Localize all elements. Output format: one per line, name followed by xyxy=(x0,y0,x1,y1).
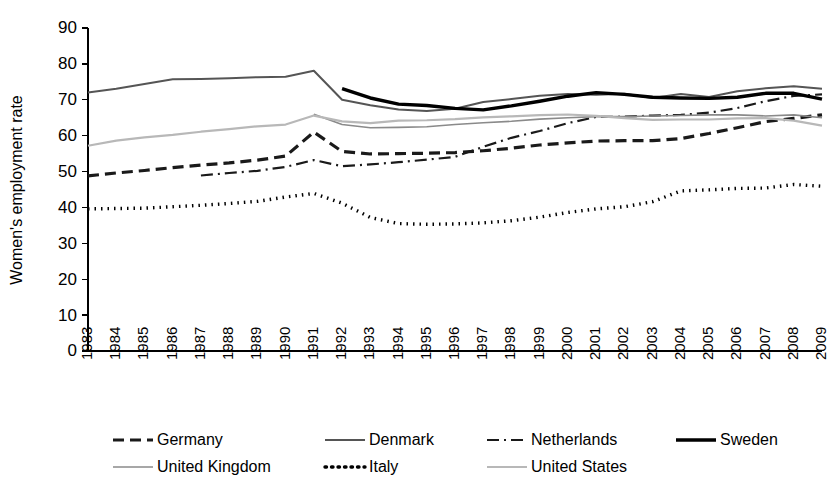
y-tick-label: 0 xyxy=(68,341,77,360)
y-tick-label: 40 xyxy=(58,198,77,217)
x-tick-label: 2009 xyxy=(812,327,829,360)
y-axis-tick-labels: 0102030405060708090 xyxy=(58,18,77,360)
x-tick-label: 2004 xyxy=(671,327,688,360)
y-tick-label: 10 xyxy=(58,306,77,325)
x-tick-label: 1988 xyxy=(219,327,236,360)
chart-axes xyxy=(82,28,822,351)
chart-legend: GermanyDenmarkNetherlandsSwedenUnited Ki… xyxy=(113,431,778,475)
legend-label-italy: Italy xyxy=(369,458,398,475)
employment-rate-chart: 0102030405060708090 19831984198519861987… xyxy=(0,0,840,491)
x-tick-label: 1997 xyxy=(473,327,490,360)
x-tick-label: 1998 xyxy=(501,327,518,360)
chart-canvas: 0102030405060708090 19831984198519861987… xyxy=(0,0,840,491)
x-tick-label: 2008 xyxy=(784,327,801,360)
y-axis-title: Women's employment rate xyxy=(8,95,25,285)
legend-label-sweden: Sweden xyxy=(720,431,778,448)
legend-item-germany[interactable]: Germany xyxy=(113,431,223,448)
x-tick-label: 1995 xyxy=(417,327,434,360)
legend-item-netherlands[interactable]: Netherlands xyxy=(487,431,617,448)
y-tick-label: 30 xyxy=(58,234,77,253)
y-tick-label: 80 xyxy=(58,54,77,73)
x-tick-label: 2007 xyxy=(756,327,773,360)
legend-label-united-states: United States xyxy=(531,458,627,475)
x-tick-label: 2005 xyxy=(699,327,716,360)
x-tick-label: 2001 xyxy=(586,327,603,360)
x-tick-label: 1991 xyxy=(304,327,321,360)
x-tick-label: 1993 xyxy=(360,327,377,360)
chart-series-lines xyxy=(88,71,822,225)
legend-label-united-kingdom: United Kingdom xyxy=(157,458,271,475)
y-tick-label: 70 xyxy=(58,90,77,109)
legend-item-united-states[interactable]: United States xyxy=(487,458,627,475)
series-line-sweden xyxy=(342,89,822,110)
y-tick-label: 60 xyxy=(58,126,77,145)
x-tick-label: 1983 xyxy=(78,327,95,360)
x-tick-label: 1987 xyxy=(191,327,208,360)
x-tick-label: 1989 xyxy=(247,327,264,360)
legend-label-netherlands: Netherlands xyxy=(531,431,617,448)
legend-item-united-kingdom[interactable]: United Kingdom xyxy=(113,458,271,475)
legend-item-sweden[interactable]: Sweden xyxy=(676,431,778,448)
x-tick-label: 1994 xyxy=(389,327,406,360)
legend-item-italy[interactable]: Italy xyxy=(325,458,398,475)
legend-label-denmark: Denmark xyxy=(369,431,435,448)
y-tick-label: 20 xyxy=(58,270,77,289)
x-tick-label: 1992 xyxy=(332,327,349,360)
x-tick-label: 2006 xyxy=(727,327,744,360)
y-tick-label: 50 xyxy=(58,162,77,181)
series-line-italy xyxy=(88,184,822,224)
x-tick-label: 1990 xyxy=(276,327,293,360)
series-line-united-states xyxy=(88,114,822,145)
series-line-denmark xyxy=(88,71,822,111)
x-tick-label: 2002 xyxy=(614,327,631,360)
legend-label-germany: Germany xyxy=(157,431,223,448)
x-tick-label: 2000 xyxy=(558,327,575,360)
legend-item-denmark[interactable]: Denmark xyxy=(325,431,435,448)
x-tick-label: 1996 xyxy=(445,327,462,360)
y-tick-label: 90 xyxy=(58,18,77,37)
x-tick-label: 1986 xyxy=(163,327,180,360)
x-tick-label: 1999 xyxy=(530,327,547,360)
x-tick-label: 2003 xyxy=(643,327,660,360)
x-tick-label: 1984 xyxy=(106,327,123,360)
x-axis-tick-labels: 1983198419851986198719881989199019911992… xyxy=(78,327,829,360)
x-tick-label: 1985 xyxy=(134,327,151,360)
